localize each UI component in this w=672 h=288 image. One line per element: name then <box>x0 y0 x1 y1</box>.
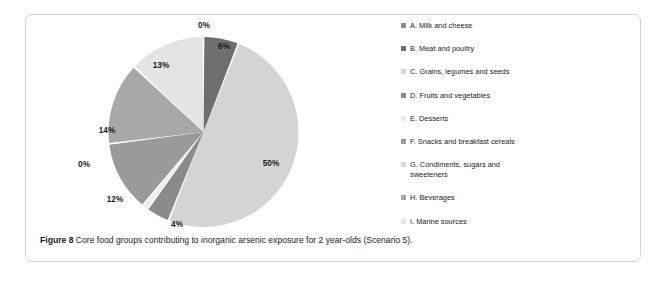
legend-item-label: D. Fruits and vegetables <box>410 91 490 101</box>
legend-swatch-icon <box>401 93 406 98</box>
pie-slice-value-label: 50% <box>263 159 280 168</box>
legend-swatch-icon <box>401 139 406 144</box>
pie-slice-value-label: 4% <box>171 220 184 227</box>
legend-item-label: G. Condiments, sugars and sweeteners <box>410 160 500 180</box>
pie-slice-value-label: 13% <box>153 61 170 70</box>
legend-item-label: I. Marine sources <box>410 217 467 227</box>
legend-swatch-icon <box>401 46 406 51</box>
pie-chart-svg: 0%6%50%4%1%12%0%14%13% <box>26 15 396 227</box>
figure-body: 0%6%50%4%1%12%0%14%13% A. Milk and chees… <box>26 15 640 227</box>
legend-item-i[interactable]: I. Marine sources <box>401 217 631 227</box>
legend-swatch-icon <box>401 116 406 121</box>
pie-slice-value-label: 6% <box>218 42 231 51</box>
figure-caption: Figure 8 Core food groups contributing t… <box>40 234 628 246</box>
legend-item-c[interactable]: C. Grains, legumes and seeds <box>401 67 631 77</box>
chart-legend: A. Milk and cheeseB. Meat and poultryC. … <box>401 21 631 240</box>
pie-slice-value-label: 14% <box>99 126 116 135</box>
pie-slice-value-label: 0% <box>78 160 91 169</box>
legend-swatch-icon <box>401 219 406 224</box>
legend-item-label: B. Meat and poultry <box>410 44 474 54</box>
legend-item-label: F. Snacks and breakfast cereals <box>410 137 515 147</box>
legend-swatch-icon <box>401 195 406 200</box>
caption-figure-number: Figure 8 <box>40 235 73 245</box>
legend-item-label: A. Milk and cheese <box>410 21 472 31</box>
legend-swatch-icon <box>401 23 406 28</box>
legend-item-e[interactable]: E. Desserts <box>401 114 631 124</box>
legend-item-label: C. Grains, legumes and seeds <box>410 67 509 77</box>
pie-chart: 0%6%50%4%1%12%0%14%13% <box>26 15 396 227</box>
caption-body: Core food groups contributing to inorgan… <box>73 235 412 245</box>
legend-item-label: H. Beverages <box>410 193 455 203</box>
legend-item-label: E. Desserts <box>410 114 448 124</box>
pie-slice-value-label: 0% <box>198 21 211 30</box>
legend-swatch-icon <box>401 69 406 74</box>
legend-item-a[interactable]: A. Milk and cheese <box>401 21 631 31</box>
legend-item-f[interactable]: F. Snacks and breakfast cereals <box>401 137 631 147</box>
legend-swatch-icon <box>401 162 406 167</box>
pie-slice-value-label: 12% <box>107 195 124 204</box>
legend-item-d[interactable]: D. Fruits and vegetables <box>401 91 631 101</box>
legend-item-b[interactable]: B. Meat and poultry <box>401 44 631 54</box>
figure-container: 0%6%50%4%1%12%0%14%13% A. Milk and chees… <box>25 14 641 262</box>
legend-item-g[interactable]: G. Condiments, sugars and sweeteners <box>401 160 631 180</box>
pie-slice-group <box>109 37 299 227</box>
legend-item-h[interactable]: H. Beverages <box>401 193 631 203</box>
